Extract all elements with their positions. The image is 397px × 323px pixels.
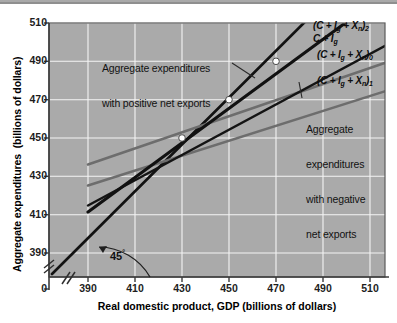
equilibrium-marker-490 [273,58,280,65]
curve-label-cig-xn0-sub-n: n [362,54,366,61]
y-tick-label-470: 470 [21,94,47,106]
curve-label-cig-xn2-mid: + X [341,20,358,31]
curve-label-cig-xn0: (C + Ig + Xn)0 [317,49,373,60]
y-axis-title: Aggregate expenditures (billions of doll… [12,57,24,272]
x-tick-label-430: 430 [168,283,196,295]
chart-figure: 510 490 470 450 430 410 390 0 390 410 43… [0,0,397,323]
x-tick-label-470: 470 [262,283,290,295]
equilibrium-marker-450 [179,135,186,142]
curve-label-cig-xn2: (C + Ig + Xn)2 [313,20,369,31]
x-tick-label-490: 490 [309,283,337,295]
curve-label-cig-xn1-sub-g: g [341,80,345,87]
y-tick-label-450: 450 [21,132,47,144]
y-tick-label-510: 510 [21,17,47,29]
positive-net-exports-line-1: Aggregate expenditures [102,63,210,75]
positive-net-exports-line-2: with positive net exports [102,98,210,110]
negative-net-exports-line-3: with negative [306,194,365,206]
x-tick-label-390: 390 [74,283,102,295]
curve-label-cig-xn0-mid: + X [345,49,362,60]
x-tick-label-450: 450 [215,283,243,295]
curve-label-cig-xn1-sub-n: n [362,80,366,87]
curve-label-cig-xn1-index: 1 [369,80,373,87]
x-axis-title: Real domestic product, GDP (billions of … [49,301,385,313]
curve-label-cig-xn0-sub-g: g [341,54,345,61]
equilibrium-marker-470 [226,96,233,103]
curve-label-cig-xn2-sub-g: g [337,25,341,32]
y-tick-label-410: 410 [21,209,47,221]
y-tick-label-390: 390 [21,247,47,259]
negative-net-exports-line-4: net exports [306,229,365,241]
y-tick-label-490: 490 [21,55,47,67]
curve-label-cig-xn2-index: 2 [365,25,369,32]
curve-label-cig-xn0-index: 0 [369,54,373,61]
curve-label-c-plus-ig-sub-g: g [333,38,337,45]
curve-label-cig-xn1: (C + Ig + Xn)1 [317,75,373,86]
curve-label-cig-xn2-sub-n: n [358,25,362,32]
x-tick-label-410: 410 [121,283,149,295]
positive-net-exports-annotation: Aggregate expenditures with positive net… [102,39,210,133]
curve-label-c-plus-ig: C + Ig [313,33,337,44]
curve-label-cig-xn2-base: (C + I [313,20,337,31]
forty-five-degree-value: 45 [110,250,122,262]
y-tick-label-0: 0 [21,283,47,295]
x-tick-label-510: 510 [356,283,384,295]
curve-label-c-plus-ig-base: C + I [313,33,333,44]
curve-label-cig-xn1-mid: + X [345,75,362,86]
degree-symbol: ° [122,249,125,256]
negative-net-exports-line-2: expenditures [306,159,365,171]
forty-five-degree-label: 45° [110,249,125,262]
curve-label-cig-xn0-base: (C + I [317,49,341,60]
y-tick-label-430: 430 [21,170,47,182]
negative-net-exports-annotation: Aggregate expenditures with negative net… [306,100,365,265]
negative-net-exports-line-1: Aggregate [306,124,365,136]
curve-label-cig-xn1-base: (C + I [317,75,341,86]
